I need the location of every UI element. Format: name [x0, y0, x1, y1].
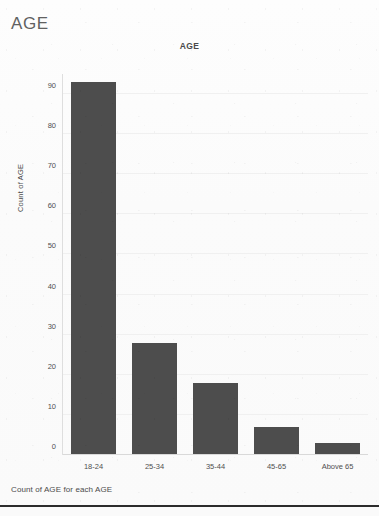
y-axis-tick-label: 40 — [48, 281, 56, 290]
bar-chart: AGE Count of AGE 0102030405060708090 18-… — [0, 34, 379, 484]
footer-divider — [0, 505, 379, 507]
y-axis-tick-label: 10 — [48, 401, 56, 410]
bar[interactable] — [254, 427, 299, 455]
bar-slot — [307, 74, 368, 455]
y-axis-tick-label: 70 — [48, 161, 56, 170]
x-axis-ticks: 18-2425-3435-4445-65Above 65 — [63, 455, 368, 471]
y-axis-tick-label: 60 — [48, 201, 56, 210]
x-axis-tick-label: Above 65 — [307, 455, 368, 471]
chart-caption: Count of AGE for each AGE — [11, 485, 112, 494]
y-axis-tick-label: 0 — [52, 442, 56, 451]
plot-area: 0102030405060708090 — [63, 74, 368, 455]
bar-slot — [124, 74, 185, 455]
y-axis-tick-label: 80 — [48, 121, 56, 130]
bar-series — [63, 74, 368, 455]
y-axis-tick-label: 90 — [48, 81, 56, 90]
y-axis-tick-label: 30 — [48, 321, 56, 330]
x-axis-tick-label: 25-34 — [124, 455, 185, 471]
bar-slot — [246, 74, 307, 455]
bar[interactable] — [71, 82, 116, 455]
chart-title: AGE — [0, 41, 379, 51]
y-axis-tick-label: 50 — [48, 241, 56, 250]
x-axis-tick-label: 18-24 — [63, 455, 124, 471]
bar[interactable] — [132, 343, 177, 455]
bar[interactable] — [193, 383, 238, 455]
y-axis-title: Count of AGE — [16, 198, 25, 212]
page-title: AGE — [11, 14, 49, 34]
x-axis-tick-label: 35-44 — [185, 455, 246, 471]
x-axis-tick-label: 45-65 — [246, 455, 307, 471]
bar-slot — [185, 74, 246, 455]
y-axis-tick-label: 20 — [48, 361, 56, 370]
bar-slot — [63, 74, 124, 455]
